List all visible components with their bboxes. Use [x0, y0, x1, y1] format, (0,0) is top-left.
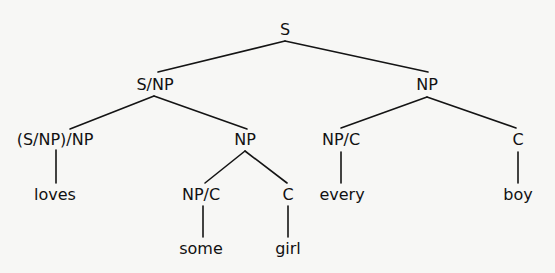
- edge-s-to-np: [285, 41, 428, 72]
- leaf-girl: girl: [275, 239, 301, 258]
- edge-snp-to-npsubj: [154, 96, 247, 129]
- node-c-girl: C: [282, 185, 293, 204]
- edge-np-to-c-boy: [427, 97, 516, 128]
- tree-labels: S S/NP NP (S/NP)/NP NP NP/C C loves NP/C…: [17, 20, 533, 258]
- edge-snp-to-verbcat: [70, 96, 154, 129]
- edge-npsubj-to-npc-some: [205, 151, 245, 183]
- edge-s-to-snp: [158, 41, 285, 72]
- leaf-every: every: [319, 185, 364, 204]
- node-verb-category: (S/NP)/NP: [17, 130, 94, 149]
- edge-npsubj-to-c-girl: [245, 151, 287, 183]
- edge-np-to-npc-every: [341, 97, 427, 128]
- categorial-grammar-parse-tree: S S/NP NP (S/NP)/NP NP NP/C C loves NP/C…: [0, 0, 555, 273]
- leaf-loves: loves: [34, 185, 76, 204]
- leaf-some: some: [179, 239, 223, 258]
- node-np-c-every: NP/C: [322, 130, 360, 149]
- leaf-boy: boy: [503, 185, 532, 204]
- node-c-boy: C: [512, 130, 523, 149]
- node-root-s: S: [280, 20, 290, 39]
- node-np-c-some: NP/C: [182, 185, 220, 204]
- tree-edges: [56, 41, 518, 237]
- node-np-object: NP: [416, 75, 438, 94]
- node-s-np: S/NP: [136, 75, 174, 94]
- node-np-subject: NP: [234, 130, 256, 149]
